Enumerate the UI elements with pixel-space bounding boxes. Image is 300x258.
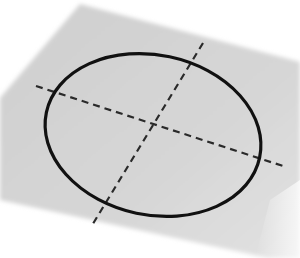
diagram-canvas	[0, 0, 300, 258]
